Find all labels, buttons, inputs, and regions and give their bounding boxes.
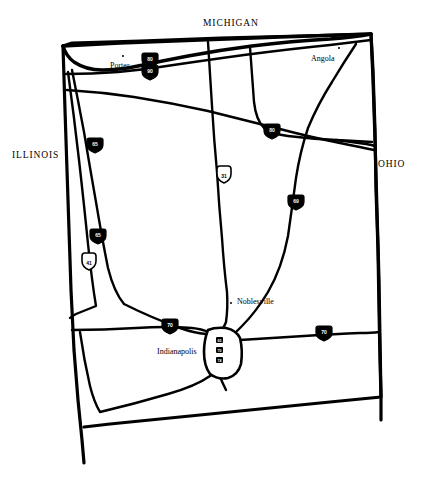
shield-i70-east[interactable]: 70	[316, 326, 332, 341]
city-label-noblesville[interactable]: Noblesville	[237, 297, 274, 306]
city-label-indianapolis[interactable]: Indianapolis	[157, 347, 197, 356]
svg-text:74: 74	[218, 359, 222, 363]
shield-i69-east[interactable]: 69	[288, 195, 304, 210]
southwest-route	[80, 332, 218, 412]
us31-central-route	[208, 42, 227, 331]
svg-text:70: 70	[167, 322, 173, 328]
svg-text:70: 70	[321, 329, 327, 335]
highway-shields-group: 80 90 80 65 31	[82, 53, 332, 363]
svg-text:70: 70	[218, 349, 222, 353]
svg-text:80: 80	[269, 127, 275, 133]
indianapolis-beltway	[204, 328, 242, 379]
state-label-illinois: ILLINOIS	[12, 150, 59, 160]
shield-i90-tollroad[interactable]: 90	[142, 65, 158, 80]
svg-text:69: 69	[293, 198, 299, 204]
shield-indy-loop-2[interactable]: 70	[216, 347, 223, 353]
i65-northwest-route	[72, 70, 206, 334]
city-label-angola[interactable]: Angola	[311, 54, 335, 63]
svg-text:31: 31	[221, 173, 227, 179]
i70-east-route	[240, 332, 379, 340]
svg-text:65: 65	[92, 141, 98, 147]
shield-indy-loop-1[interactable]: 65	[216, 337, 223, 343]
state-label-michigan: MICHIGAN	[203, 18, 259, 28]
us20-corridor	[67, 90, 374, 150]
shield-i70-west[interactable]: 70	[162, 319, 178, 334]
indianapolis-beltway-group	[204, 328, 242, 379]
svg-text:65: 65	[218, 339, 222, 343]
svg-text:90: 90	[147, 68, 153, 74]
shield-i80-east[interactable]: 80	[264, 124, 280, 139]
svg-text:80: 80	[147, 56, 153, 62]
svg-text:41: 41	[86, 260, 92, 266]
shield-us41[interactable]: 41	[82, 253, 96, 270]
shield-us31[interactable]: 31	[217, 166, 231, 183]
indiana-map: 80 90 80 65 31	[0, 0, 422, 480]
city-label-porter[interactable]: Porter	[110, 61, 130, 70]
east-state-border	[371, 34, 381, 420]
state-label-ohio: OHIO	[378, 159, 405, 169]
svg-text:65: 65	[95, 232, 101, 238]
map-drawing: 80 90 80 65 31	[0, 0, 422, 480]
shield-indy-loop-3[interactable]: 74	[216, 357, 223, 363]
shield-i65-north[interactable]: 65	[87, 138, 103, 153]
